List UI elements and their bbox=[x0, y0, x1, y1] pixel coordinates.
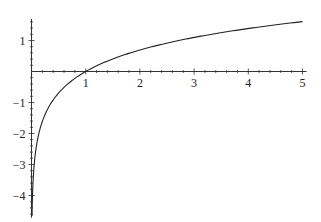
y-tick-label: −1 bbox=[13, 96, 26, 110]
y-tick-label: −4 bbox=[13, 189, 26, 203]
x-tick-labels: 12345 bbox=[83, 76, 306, 90]
x-tick-label: 3 bbox=[191, 76, 197, 90]
x-tick-label: 5 bbox=[300, 76, 306, 90]
y-tick-label: −2 bbox=[13, 127, 26, 141]
x-tick-label: 4 bbox=[245, 76, 251, 90]
y-tick-label: −3 bbox=[13, 158, 26, 172]
y-tick-label: 1 bbox=[20, 34, 26, 48]
x-tick-label: 1 bbox=[83, 76, 89, 90]
y-tick-labels: −4−3−2−11 bbox=[13, 34, 26, 203]
log-curve bbox=[32, 22, 302, 216]
line-chart: 12345 −4−3−2−11 bbox=[0, 0, 321, 222]
axes bbox=[32, 19, 307, 218]
x-tick-label: 2 bbox=[137, 76, 143, 90]
